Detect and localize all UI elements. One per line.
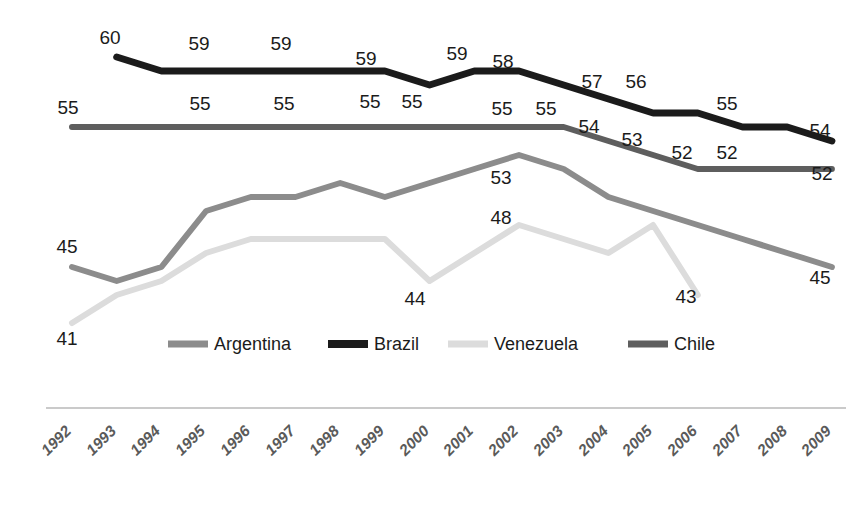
x-tick-2007: 2007 <box>708 421 746 459</box>
data-label-venezuela-2002: 48 <box>490 207 511 228</box>
x-axis-tick-labels: 1992199319941995199619971998199920002001… <box>38 421 835 459</box>
x-tick-2004: 2004 <box>574 422 611 459</box>
data-label-brazil-1993: 60 <box>99 27 120 48</box>
legend-label-chile[interactable]: Chile <box>674 334 715 354</box>
x-tick-2006: 2006 <box>663 422 700 459</box>
x-tick-2001: 2001 <box>439 422 476 459</box>
data-label-chile-1997: 55 <box>273 93 294 114</box>
x-tick-1993: 1993 <box>83 422 120 459</box>
x-tick-2009: 2009 <box>797 422 834 459</box>
data-label-argentina-1992: 45 <box>56 236 77 257</box>
legend-label-venezuela[interactable]: Venezuela <box>494 334 579 354</box>
x-tick-2002: 2002 <box>484 422 521 459</box>
series-line-venezuela <box>72 225 698 323</box>
x-tick-1996: 1996 <box>217 422 254 459</box>
data-label-brazil-2004: 57 <box>581 71 602 92</box>
data-label-argentina-2002: 53 <box>490 167 511 188</box>
x-tick-2008: 2008 <box>753 422 790 459</box>
data-label-chile-2007: 52 <box>716 142 737 163</box>
chart-canvas: 6059595959585756555455555555555555545352… <box>0 0 868 508</box>
x-tick-1997: 1997 <box>262 421 299 458</box>
data-label-brazil-1995: 59 <box>188 33 209 54</box>
chart-legend: ArgentinaBrazilVenezuelaChile <box>168 334 715 354</box>
data-label-chile-2003: 55 <box>535 98 556 119</box>
data-label-brazil-2002: 58 <box>492 51 513 72</box>
data-label-chile-2004: 54 <box>578 116 600 137</box>
x-tick-1992: 1992 <box>38 422 75 459</box>
data-label-chile-2005: 53 <box>621 129 642 150</box>
data-label-chile-2002: 55 <box>491 98 512 119</box>
x-tick-1998: 1998 <box>306 422 343 459</box>
x-tick-1995: 1995 <box>172 422 209 459</box>
data-label-venezuela-1992: 41 <box>56 328 77 349</box>
x-tick-2003: 2003 <box>529 422 566 459</box>
data-label-chile-1995: 55 <box>189 93 210 114</box>
x-tick-2005: 2005 <box>618 422 655 459</box>
data-label-chile-1999: 55 <box>359 91 380 112</box>
data-label-brazil-2005: 56 <box>625 71 646 92</box>
data-label-brazil-1997: 59 <box>270 33 291 54</box>
data-label-brazil-2009: 54 <box>809 120 831 141</box>
data-label-chile-1992: 55 <box>57 97 78 118</box>
data-label-brazil-1999: 59 <box>355 48 376 69</box>
data-label-chile-2009: 52 <box>811 163 832 184</box>
data-label-venezuela-2000: 44 <box>404 288 426 309</box>
data-label-argentina-2009: 45 <box>809 267 830 288</box>
line-chart: 6059595959585756555455555555555555545352… <box>0 0 868 508</box>
legend-label-argentina[interactable]: Argentina <box>214 334 292 354</box>
data-label-brazil-2001: 59 <box>446 43 467 64</box>
legend-label-brazil[interactable]: Brazil <box>374 334 419 354</box>
x-tick-2000: 2000 <box>395 422 432 459</box>
data-label-brazil-2007: 55 <box>716 93 737 114</box>
data-labels-group: 6059595959585756555455555555555555545352… <box>56 27 832 349</box>
x-tick-1994: 1994 <box>127 422 164 459</box>
data-label-venezuela-2006: 43 <box>675 286 696 307</box>
x-tick-1999: 1999 <box>351 422 388 459</box>
data-label-chile-2000: 55 <box>401 91 422 112</box>
data-label-chile-2006: 52 <box>671 142 692 163</box>
